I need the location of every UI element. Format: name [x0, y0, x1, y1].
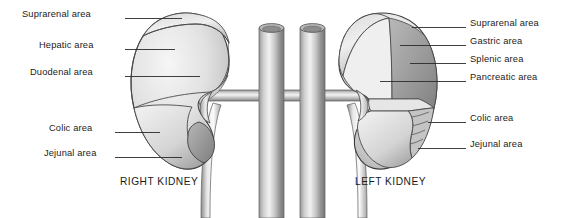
label-gastric-area-left: Gastric area: [470, 36, 522, 47]
renal-band-overlay: [259, 90, 284, 101]
inferior-vena-cava: [259, 28, 284, 218]
left-kidney-caption: LEFT KIDNEY: [355, 176, 426, 187]
label-duodenal-area-right: Duodenal area: [30, 67, 93, 78]
abdominal-aorta: [300, 28, 325, 218]
right-kidney-group: [131, 13, 229, 169]
label-pancreatic-area-left: Pancreatic area: [470, 72, 537, 83]
aorta-lumen: [303, 26, 321, 32]
label-suprarenal-area-right: Suprarenal area: [22, 9, 91, 20]
right-kidney-caption: RIGHT KIDNEY: [120, 176, 198, 187]
left-splenic-area: [389, 18, 437, 108]
anatomy-illustration: [0, 0, 568, 218]
renal-band-overlay-2: [300, 90, 325, 101]
label-hepatic-area-right: Hepatic area: [39, 40, 94, 51]
label-splenic-area-left: Splenic area: [470, 54, 523, 65]
label-jejunal-area-right: Jejunal area: [44, 148, 96, 159]
label-suprarenal-area-left: Suprarenal area: [470, 18, 539, 29]
kidney-relations-figure: Suprarenal areaHepatic areaDuodenal area…: [0, 0, 568, 218]
label-colic-area-right: Colic area: [49, 123, 92, 134]
label-colic-area-left: Colic area: [470, 113, 513, 124]
ivc-lumen: [262, 26, 280, 32]
label-jejunal-area-left: Jejunal area: [470, 139, 522, 150]
